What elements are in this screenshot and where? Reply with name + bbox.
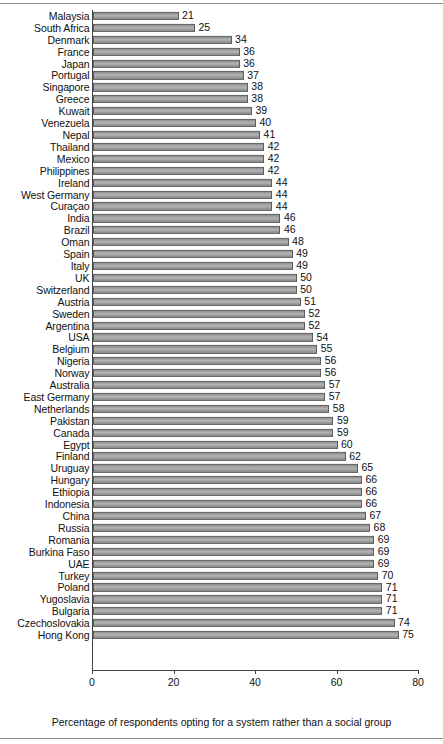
bar-row: USA54 <box>0 331 443 343</box>
bar-value-label: 71 <box>386 594 398 605</box>
bar-fill <box>93 381 325 389</box>
bar-row: Philippines42 <box>0 165 443 177</box>
bar-rows-container: Malaysia21South Africa25Denmark34France3… <box>0 10 443 641</box>
bar: 46 <box>93 226 280 234</box>
bar-fill <box>93 202 272 210</box>
bar-fill <box>93 179 272 187</box>
bar: 59 <box>93 429 333 437</box>
category-label: Philippines <box>40 165 90 176</box>
bar-value-label: 56 <box>325 368 337 379</box>
bar-row: South Africa25 <box>0 22 443 34</box>
x-tick <box>174 670 175 674</box>
category-label: Brazil <box>64 225 90 236</box>
bar-row: Portugal37 <box>0 70 443 82</box>
bar: 50 <box>93 286 297 294</box>
bar-fill <box>93 321 305 329</box>
category-label: Yugoslavia <box>40 594 90 605</box>
bar: 39 <box>93 107 252 115</box>
bar: 34 <box>93 36 232 44</box>
bar-value-label: 68 <box>374 522 386 533</box>
bar: 44 <box>93 202 272 210</box>
bar-value-label: 65 <box>361 463 373 474</box>
category-label: Kuwait <box>59 106 90 117</box>
bar: 48 <box>93 238 289 246</box>
bar-row: Japan36 <box>0 58 443 70</box>
bar-row: Poland71 <box>0 582 443 594</box>
bar-row: Denmark34 <box>0 34 443 46</box>
bar-value-label: 62 <box>349 451 361 462</box>
x-tick-label: 40 <box>249 676 261 688</box>
category-label: Mexico <box>57 153 90 164</box>
category-label: Uruguay <box>51 463 90 474</box>
bar: 40 <box>93 119 256 127</box>
bar-fill <box>93 298 301 306</box>
bar-fill <box>93 607 382 615</box>
bar: 57 <box>93 393 325 401</box>
bar-fill <box>93 12 179 20</box>
bar-value-label: 38 <box>251 94 263 105</box>
bar: 44 <box>93 179 272 187</box>
bar-value-label: 59 <box>337 427 349 438</box>
bar-value-label: 66 <box>365 499 377 510</box>
category-label: Turkey <box>58 570 89 581</box>
bar-fill <box>93 155 264 163</box>
bar-value-label: 36 <box>243 46 255 57</box>
bar-fill <box>93 333 313 341</box>
bar-value-label: 44 <box>276 201 288 212</box>
bar: 67 <box>93 512 366 520</box>
bar-fill <box>93 393 325 401</box>
bar-fill <box>93 464 358 472</box>
x-tick-label: 60 <box>331 676 343 688</box>
bar: 71 <box>93 583 382 591</box>
bar: 71 <box>93 607 382 615</box>
bar-value-label: 41 <box>264 130 276 141</box>
bar-value-label: 71 <box>386 606 398 617</box>
bar-row: Hungary66 <box>0 474 443 486</box>
bar: 36 <box>93 48 240 56</box>
bar: 58 <box>93 405 329 413</box>
bar-fill <box>93 286 297 294</box>
bar-value-label: 59 <box>337 415 349 426</box>
bar-fill <box>93 595 382 603</box>
bar-fill <box>93 59 240 67</box>
bar-row: Turkey70 <box>0 570 443 582</box>
x-tick-label: 80 <box>412 676 424 688</box>
bar-row: Greece38 <box>0 93 443 105</box>
bar: 66 <box>93 488 362 496</box>
bar-fill <box>93 476 362 484</box>
bar-fill <box>93 107 252 115</box>
bar: 56 <box>93 357 321 365</box>
bar-fill <box>93 345 317 353</box>
bottom-divider-rule <box>0 738 443 739</box>
bar-fill <box>93 631 399 639</box>
bar-value-label: 21 <box>182 10 194 21</box>
bar-row: Italy49 <box>0 260 443 272</box>
bar-fill <box>93 274 297 282</box>
bar-fill <box>93 310 305 318</box>
bar: 70 <box>93 571 378 579</box>
bar-row: Pakistan59 <box>0 415 443 427</box>
category-label: Canada <box>53 427 89 438</box>
bar-fill <box>93 417 333 425</box>
bar-value-label: 75 <box>402 630 414 641</box>
category-label: Poland <box>57 582 89 593</box>
category-label: Sweden <box>52 308 89 319</box>
bar-value-label: 44 <box>276 189 288 200</box>
bar: 38 <box>93 95 248 103</box>
bar-fill <box>93 452 346 460</box>
bar-row: Hong Kong75 <box>0 629 443 641</box>
bar-row: France36 <box>0 46 443 58</box>
bar-row: Ethiopia66 <box>0 486 443 498</box>
bar: 21 <box>93 12 179 20</box>
bar: 37 <box>93 71 244 79</box>
bar-value-label: 49 <box>296 260 308 271</box>
bar-row: Switzerland50 <box>0 284 443 296</box>
category-label: Bulgaria <box>52 606 90 617</box>
category-label: Malaysia <box>49 10 90 21</box>
bar-fill <box>93 36 232 44</box>
x-tick <box>337 670 338 674</box>
bar-fill <box>93 512 366 520</box>
category-label: Denmark <box>48 34 90 45</box>
bar: 52 <box>93 310 305 318</box>
bar-value-label: 58 <box>333 403 345 414</box>
